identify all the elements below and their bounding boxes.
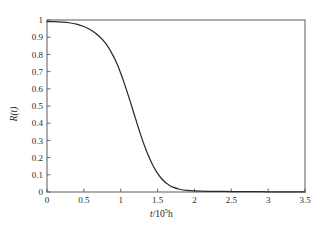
chart-canvas: 00.511.522.533.5 00.10.20.30.40.50.60.70…	[0, 0, 323, 229]
x-axis-label: t/105h	[150, 207, 173, 219]
y-tick-label: 0.6	[32, 84, 44, 94]
y-tick-label: 1	[39, 15, 44, 25]
x-tick-label: 1.5	[152, 195, 164, 205]
y-tick-label: 0.5	[32, 101, 44, 111]
y-tick-label: 0	[39, 187, 44, 197]
y-axis-label-text: R(t)	[9, 107, 19, 122]
y-tick-label: 0.2	[32, 153, 43, 163]
x-tick-label: 2.5	[226, 195, 238, 205]
y-axis-label-variable: R	[9, 116, 19, 122]
y-axis-label-argument: (t)	[9, 107, 19, 116]
x-tick-label: 0.5	[78, 195, 90, 205]
x-tick-label: 2	[192, 195, 197, 205]
x-tick-label: 1	[118, 195, 123, 205]
y-tick-label: 0.3	[32, 136, 44, 146]
x-axis-label-divider: /10	[153, 209, 165, 219]
x-tick-label: 0	[45, 195, 50, 205]
y-tick-label: 0.7	[32, 67, 44, 77]
y-tick-label: 0.4	[32, 118, 44, 128]
y-tick-label: 0.9	[32, 32, 44, 42]
reliability-chart: 00.511.522.533.5 00.10.20.30.40.50.60.70…	[0, 0, 323, 229]
y-axis-label: R(t)	[7, 92, 21, 136]
y-tick-label: 0.8	[32, 50, 44, 60]
y-tick-label: 0.1	[32, 170, 43, 180]
x-tick-label: 3.5	[299, 195, 311, 205]
x-axis-label-unit: h	[168, 209, 173, 219]
x-tick-label: 3	[266, 195, 271, 205]
